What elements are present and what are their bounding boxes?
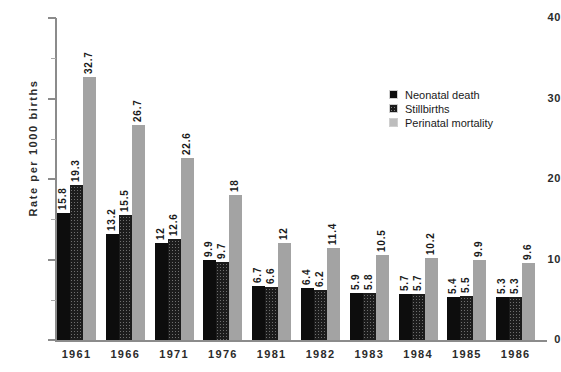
bar: [83, 77, 96, 340]
bar-value-label: 12: [278, 228, 289, 241]
bar: [425, 258, 438, 340]
bar: [57, 213, 70, 340]
bar: [412, 294, 425, 340]
legend-label: Stillbirths: [405, 103, 450, 115]
bar-value-label: 32.7: [83, 51, 94, 74]
bar-value-label: 6.7: [252, 267, 263, 283]
bar-value-label: 9.6: [522, 243, 533, 259]
x-tick-label: 1986: [481, 348, 551, 360]
legend-swatch-icon: [389, 90, 398, 99]
bar: [522, 263, 535, 340]
bar: [70, 185, 83, 340]
bar: [132, 125, 145, 340]
bar-group: 5.35.39.6: [496, 18, 535, 340]
bar-group: 5.75.710.2: [399, 18, 438, 340]
bar-value-label: 5.3: [496, 278, 507, 294]
bar-group: 1212.622.6: [155, 18, 194, 340]
bar-value-label: 19.3: [70, 159, 81, 182]
bar-value-label: 22.6: [181, 132, 192, 155]
bar-group: 13.215.526.7: [106, 18, 145, 340]
bar: [473, 260, 486, 340]
bar: [327, 248, 340, 340]
bar: [278, 243, 291, 340]
bar: [496, 297, 509, 340]
bar-value-label: 5.5: [460, 276, 471, 292]
bar-value-label: 12.6: [168, 213, 179, 236]
bar-value-label: 9.9: [473, 241, 484, 257]
bar: [314, 290, 327, 340]
bar-value-label: 5.9: [350, 273, 361, 289]
legend-swatch-icon: [389, 104, 398, 113]
bar: [216, 262, 229, 340]
legend-label: Neonatal death: [405, 89, 480, 101]
bar-value-label: 10.5: [376, 230, 387, 253]
bar: [350, 293, 363, 340]
bar-value-label: 9.7: [216, 243, 227, 259]
y-axis-title: Rate per 1000 births: [27, 58, 39, 238]
bar: [509, 297, 522, 340]
bar: [181, 158, 194, 340]
x-axis-line: [55, 340, 547, 342]
bar-group: 6.76.612: [252, 18, 291, 340]
bar-chart: Rate per 1000 births 010203040 15.819.33…: [0, 0, 561, 372]
legend-label: Perinatal mortality: [405, 117, 493, 129]
bar: [203, 260, 216, 340]
bar-value-label: 12: [155, 228, 166, 241]
bar-value-label: 5.3: [509, 278, 520, 294]
bar-value-label: 9.9: [203, 241, 214, 257]
bar-group: 6.46.211.4: [301, 18, 340, 340]
bar-value-label: 5.8: [363, 274, 374, 290]
bar: [168, 239, 181, 340]
plot-area: 15.819.332.713.215.526.71212.622.69.99.7…: [55, 18, 547, 340]
legend-item-stillbirths: Stillbirths: [389, 102, 493, 115]
bar: [399, 294, 412, 340]
bar: [106, 234, 119, 340]
legend-swatch-icon: [389, 118, 398, 127]
bar-value-label: 15.8: [57, 187, 68, 210]
bar: [363, 293, 376, 340]
bar: [447, 297, 460, 340]
bar-value-label: 18: [229, 179, 240, 192]
legend-item-perinatal-mortality: Perinatal mortality: [389, 116, 493, 129]
bar: [119, 215, 132, 340]
bar-value-label: 10.2: [425, 232, 436, 255]
bar-value-label: 26.7: [132, 99, 143, 122]
bar: [252, 286, 265, 340]
bar: [265, 287, 278, 340]
bar-group: 9.99.718: [203, 18, 242, 340]
bar-value-label: 15.5: [119, 190, 130, 213]
bar: [460, 296, 473, 340]
bar-value-label: 5.7: [412, 275, 423, 291]
bar-value-label: 13.2: [106, 208, 117, 231]
bar-value-label: 11.4: [327, 223, 338, 245]
bar-value-label: 5.4: [447, 277, 458, 293]
bar-group: 5.95.810.5: [350, 18, 389, 340]
bar: [301, 288, 314, 340]
bar: [376, 255, 389, 340]
bar-value-label: 6.4: [301, 269, 312, 285]
bar: [229, 195, 242, 340]
bar-value-label: 6.2: [314, 271, 325, 287]
legend: Neonatal death Stillbirths Perinatal mor…: [389, 88, 493, 130]
legend-item-neonatal-death: Neonatal death: [389, 88, 493, 101]
bar-value-label: 5.7: [399, 275, 410, 291]
bar-group: 15.819.332.7: [57, 18, 96, 340]
bar: [155, 243, 168, 340]
bar-value-label: 6.6: [265, 268, 276, 284]
bar-group: 5.45.59.9: [447, 18, 486, 340]
